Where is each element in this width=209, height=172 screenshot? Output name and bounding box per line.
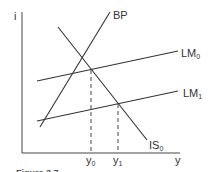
lm1-label: LM1 xyxy=(183,87,202,100)
lm1-curve xyxy=(37,91,178,121)
bp-curve xyxy=(40,12,110,127)
figure-caption: Figure 3.7 xyxy=(16,168,59,172)
y0-label: y0 xyxy=(86,154,96,167)
bp-label: BP xyxy=(113,9,128,21)
y-axis-label: i xyxy=(14,10,16,22)
x-axis-label: y xyxy=(175,154,181,166)
lm0-curve xyxy=(37,51,178,81)
y1-label: y1 xyxy=(113,154,123,167)
is0-label: IS0 xyxy=(149,139,163,152)
is0-curve xyxy=(58,27,147,140)
is-lm-bp-diagram: i y BP IS0 LM0 LM1 y0 y1 Figure 3.7 xyxy=(0,0,209,172)
lm0-label: LM0 xyxy=(181,47,200,60)
